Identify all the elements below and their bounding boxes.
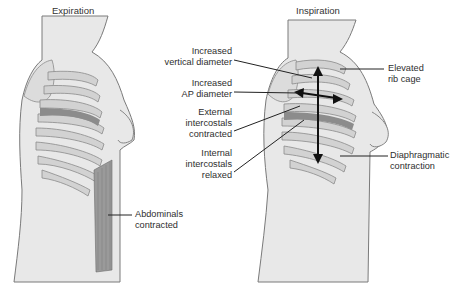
- label-line: Elevated: [388, 63, 424, 74]
- inspiration-figure: [120, 0, 388, 282]
- label-increased-ap-diameter: Increased AP diameter: [140, 78, 232, 100]
- label-line: Diaphragmatic: [390, 150, 449, 161]
- label-line: rib cage: [388, 74, 424, 85]
- label-abdominals-contracted: Abdominals contracted: [135, 209, 183, 231]
- expiration-figure: [14, 16, 135, 282]
- label-line: intercostals: [140, 159, 232, 170]
- label-line: Internal: [140, 148, 232, 159]
- label-line: vertical diameter: [140, 57, 232, 68]
- label-line: contracted: [140, 129, 232, 140]
- anatomy-illustration: [0, 0, 464, 288]
- label-line: contraction: [390, 161, 449, 172]
- label-line: External: [140, 107, 232, 118]
- label-line: Abdominals: [135, 209, 183, 220]
- label-line: relaxed: [140, 170, 232, 181]
- label-external-intercostals-contracted: External intercostals contracted: [140, 107, 232, 140]
- label-line: contracted: [135, 220, 183, 231]
- label-diaphragmatic-contraction: Diaphragmatic contraction: [390, 150, 449, 172]
- label-line: AP diameter: [140, 89, 232, 100]
- panel-title-inspiration: Inspiration: [296, 5, 340, 16]
- label-line: Increased: [140, 46, 232, 57]
- panel-title-expiration: Expiration: [52, 5, 94, 16]
- label-line: Increased: [140, 78, 232, 89]
- label-elevated-rib-cage: Elevated rib cage: [388, 63, 424, 85]
- label-increased-vertical-diameter: Increased vertical diameter: [140, 46, 232, 68]
- label-internal-intercostals-relaxed: Internal intercostals relaxed: [140, 148, 232, 181]
- label-line: intercostals: [140, 118, 232, 129]
